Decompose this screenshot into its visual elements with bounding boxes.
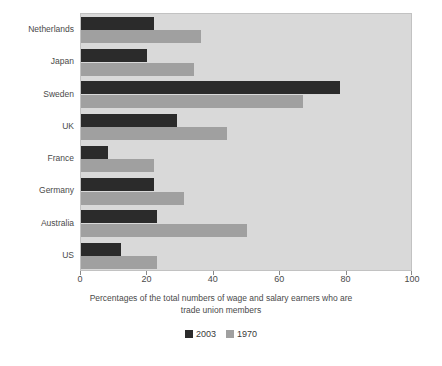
bar-germany-2003 <box>81 178 154 191</box>
y-label-germany: Germany <box>0 185 74 195</box>
y-label-netherlands: Netherlands <box>0 24 74 34</box>
bar-group <box>81 143 411 175</box>
bar-japan-2003 <box>81 49 147 62</box>
bar-us-1970 <box>81 256 157 269</box>
caption-line-2: trade union members <box>181 305 261 315</box>
bar-group <box>81 111 411 143</box>
bar-chart-figure: NetherlandsJapanSwedenUKFranceGermanyAus… <box>0 0 442 366</box>
x-tick-label-20: 20 <box>141 274 151 284</box>
x-tick-label-0: 0 <box>77 274 82 284</box>
legend-item-1970: 1970 <box>226 329 257 339</box>
legend-swatch-1970 <box>226 330 234 338</box>
caption-line-1: Percentages of the total numbers of wage… <box>90 293 353 303</box>
bar-group <box>81 46 411 78</box>
bar-australia-1970 <box>81 224 247 237</box>
bar-germany-1970 <box>81 192 184 205</box>
x-tick-label-80: 80 <box>341 274 351 284</box>
bar-sweden-1970 <box>81 95 303 108</box>
y-label-uk: UK <box>0 121 74 131</box>
bar-uk-2003 <box>81 114 177 127</box>
chart-caption: Percentages of the total numbers of wage… <box>56 292 386 316</box>
bar-group <box>81 79 411 111</box>
bar-australia-2003 <box>81 210 157 223</box>
bar-france-1970 <box>81 159 154 172</box>
x-tick-label-40: 40 <box>208 274 218 284</box>
y-label-japan: Japan <box>0 56 74 66</box>
legend-swatch-2003 <box>185 330 193 338</box>
bar-group <box>81 208 411 240</box>
x-tick-label-60: 60 <box>274 274 284 284</box>
bar-group <box>81 175 411 207</box>
bar-sweden-2003 <box>81 81 340 94</box>
bar-france-2003 <box>81 146 108 159</box>
bar-group <box>81 240 411 272</box>
y-label-sweden: Sweden <box>0 89 74 99</box>
bar-uk-1970 <box>81 127 227 140</box>
bar-netherlands-1970 <box>81 30 201 43</box>
legend-item-2003: 2003 <box>185 329 216 339</box>
bar-us-2003 <box>81 243 121 256</box>
legend-label-1970: 1970 <box>237 329 257 339</box>
chart-legend: 20031970 <box>0 329 442 339</box>
y-label-australia: Australia <box>0 218 74 228</box>
x-axis-tick-labels: 020406080100 <box>80 274 412 288</box>
y-label-france: France <box>0 153 74 163</box>
y-label-us: US <box>0 250 74 260</box>
legend-label-2003: 2003 <box>196 329 216 339</box>
bar-japan-1970 <box>81 63 194 76</box>
x-tick-label-100: 100 <box>404 274 419 284</box>
bar-group <box>81 14 411 46</box>
bar-netherlands-2003 <box>81 17 154 30</box>
plot-area <box>80 13 412 271</box>
y-axis-category-labels: NetherlandsJapanSwedenUKFranceGermanyAus… <box>0 13 74 271</box>
